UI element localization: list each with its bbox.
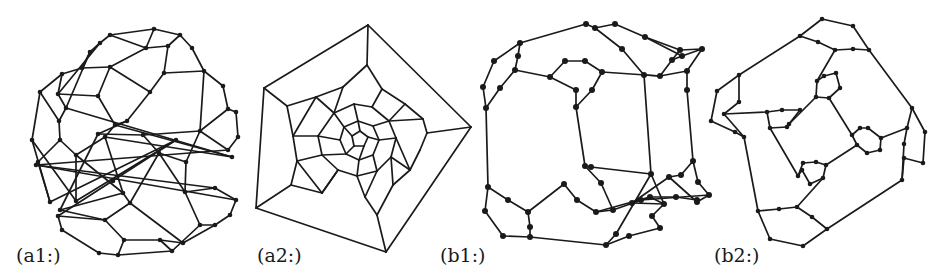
graph-edge [789,110,800,124]
graph-edge [770,127,787,128]
graph-edge [907,108,912,128]
graph-vertex [910,106,915,111]
graph-vertex [900,178,905,183]
graph-edge [827,180,902,229]
graph-edge [812,217,827,229]
graph-edge [923,132,925,163]
graph-vertex [737,100,742,105]
graph-vertex [798,108,803,113]
graph-vertex [921,161,926,166]
graph-vertex [796,174,801,179]
graph-vertex [827,96,832,101]
graph-vertex [878,148,883,153]
graph-edge [744,137,758,211]
graph-edge [711,91,717,121]
graph-vertex [798,34,803,39]
graph-vertex [780,108,785,113]
graph-edge [767,112,770,128]
graph-vertex [833,48,838,53]
panel-label-b2: (b2:) [714,244,759,266]
graph-vertex [800,168,805,173]
graph-vertex [709,119,714,124]
graph-vertex [867,48,872,53]
graph-edge [724,102,739,114]
graph-vertex [777,207,782,212]
graph-vertex [879,136,884,141]
graph-edge [816,81,817,97]
graph-edge [904,128,907,144]
graph-edge [802,170,810,184]
graph-edge [800,36,818,42]
graph-edge [822,19,853,26]
graph-edge [826,145,857,165]
graph-vertex [851,47,856,52]
graph-vertex [733,130,738,135]
graph-vertex [715,89,720,94]
graph-edge [770,239,803,246]
graph-edge [868,128,881,138]
graph-vertex [838,86,843,91]
graph-edge [758,211,770,239]
graph-vertex [801,161,806,166]
graph-vertex [815,79,820,84]
graph-edge [717,75,739,91]
graph-vertex [902,156,907,161]
graph-vertex [808,182,813,187]
graph-vertex [902,142,907,147]
graph-edge [739,36,800,75]
graph-vertex [816,40,821,45]
graph-vertex [821,176,826,181]
graph-vertex [858,126,863,131]
graph-edge [779,207,797,209]
graph-vertex [834,71,839,76]
graph-b2 [0,0,934,276]
graph-vertex [737,73,742,78]
graph-edge [904,158,923,163]
graph-vertex [855,143,860,148]
graph-vertex [768,126,773,131]
graph-edge [758,209,779,211]
graph-vertex [756,209,761,214]
graph-edge [724,112,767,114]
graph-vertex [785,125,790,130]
graph-vertex [801,244,806,249]
graph-vertex [905,126,910,131]
graph-vertex [865,151,870,156]
graph-edge [835,49,853,50]
graph-vertex [850,133,855,138]
graph-vertex [923,130,928,135]
graph-edge [853,26,869,50]
graph-edge [818,42,835,50]
graph-vertex [765,110,770,115]
graph-vertex [768,237,773,242]
graph-vertex [742,135,747,140]
graph-vertex [866,126,871,131]
graph-vertex [722,112,727,117]
graph-edge [912,108,925,132]
graph-vertex [820,17,825,22]
figure: (a1:) (a2:) (b1:) (b2:) [0,0,934,276]
graph-edge [869,50,912,108]
graph-edge [800,19,822,36]
graph-edge [803,229,827,246]
graph-vertex [814,160,819,165]
graph-vertex [822,74,827,79]
graph-edge [770,128,798,176]
graph-edge [829,98,852,135]
graph-vertex [795,205,800,210]
graph-vertex [825,227,830,232]
graph-edge [881,128,907,138]
graph-edge [853,49,869,50]
graph-vertex [851,24,856,29]
graph-edge [836,73,840,88]
graph-vertex [810,215,815,220]
graph-vertex [824,163,829,168]
graph-vertex [814,95,819,100]
panel-b2: (b2:) [0,0,934,276]
graph-edge [797,207,812,217]
